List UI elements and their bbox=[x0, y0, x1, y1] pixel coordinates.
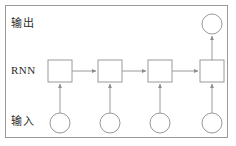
rnn-cell-2[interactable] bbox=[98, 60, 122, 82]
rnn-cell-3[interactable] bbox=[148, 60, 172, 82]
input-node-2[interactable] bbox=[100, 113, 120, 133]
input-node-3[interactable] bbox=[150, 113, 170, 133]
rnn-cell-4[interactable] bbox=[200, 60, 224, 82]
figure-canvas: 输出 RNN 输入 bbox=[0, 0, 236, 146]
output-node-1[interactable] bbox=[202, 14, 222, 34]
row-label-rnn: RNN bbox=[11, 65, 36, 76]
rnn-cell-1[interactable] bbox=[48, 60, 72, 82]
row-label-input: 输入 bbox=[11, 116, 35, 127]
input-node-4[interactable] bbox=[202, 113, 222, 133]
input-node-1[interactable] bbox=[50, 113, 70, 133]
row-label-output: 输出 bbox=[11, 18, 35, 29]
